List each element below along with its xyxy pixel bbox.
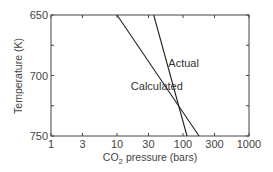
- x-tick-label: 10: [111, 138, 123, 150]
- annotation-actual: Actual: [168, 57, 199, 69]
- x-axis-label: CO2pressure (bars): [103, 151, 197, 166]
- chart-root: 1310301003001000 650700750 Actual Calcul…: [0, 0, 273, 172]
- y-axis-ticks: 650700750: [30, 9, 249, 142]
- plot-frame: [51, 15, 249, 136]
- annotation-calculated: Calculated: [131, 80, 183, 92]
- x-tick-label: 3: [79, 138, 85, 150]
- data-lines: [117, 15, 199, 136]
- line-actual: [154, 15, 187, 136]
- x-tick-label: 30: [142, 138, 154, 150]
- x-tick-label: 300: [205, 138, 223, 150]
- line-calculated: [117, 15, 199, 136]
- x-tick-label: 1: [48, 138, 54, 150]
- y-axis-label: Temperature (K): [12, 38, 24, 114]
- y-tick-label: 650: [30, 9, 48, 21]
- y-tick-label: 700: [30, 70, 48, 82]
- x-tick-label: 100: [174, 138, 192, 150]
- x-tick-label: 1000: [237, 138, 261, 150]
- y-tick-label: 750: [30, 130, 48, 142]
